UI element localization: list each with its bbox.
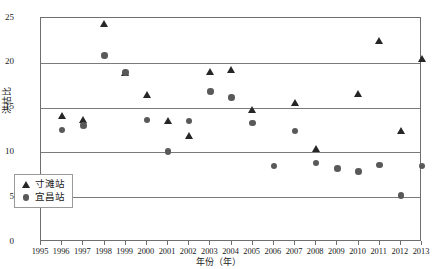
- gridline: [41, 197, 420, 198]
- y-tick-label: 10: [0, 147, 14, 156]
- data-point: [101, 52, 108, 59]
- data-point: [185, 132, 193, 139]
- x-tick: [273, 241, 274, 245]
- x-tick: [104, 241, 105, 245]
- y-tick-label: 0: [0, 237, 14, 246]
- x-tick-label: 2013: [404, 247, 437, 256]
- y-tick-label: 15: [0, 102, 14, 111]
- data-point: [334, 165, 341, 172]
- x-tick: [400, 241, 401, 245]
- data-point: [122, 69, 129, 76]
- gridline: [41, 152, 420, 153]
- circle-marker-icon: [20, 194, 32, 201]
- data-point: [291, 99, 299, 106]
- data-point: [227, 66, 235, 73]
- legend-item-yichang: 宜昌站: [20, 191, 65, 204]
- data-point: [418, 55, 426, 62]
- data-point: [164, 117, 172, 124]
- legend-item-cuntan: 寸滩站: [20, 178, 65, 191]
- legend-label: 寸滩站: [32, 179, 65, 190]
- y-tick-label: 25: [0, 13, 14, 22]
- scatter-chart: 洪枯比 年份（年） 寸滩站 宜昌站 0510152025199519961997…: [0, 0, 437, 269]
- data-point: [398, 192, 405, 199]
- data-point: [206, 68, 214, 75]
- data-point: [249, 120, 256, 127]
- x-tick: [231, 241, 232, 245]
- data-point: [355, 168, 362, 175]
- data-point: [354, 90, 362, 97]
- x-tick: [82, 241, 83, 245]
- x-tick: [167, 241, 168, 245]
- data-point: [165, 148, 172, 155]
- plot-area: [40, 17, 421, 241]
- x-tick: [188, 241, 189, 245]
- data-point: [313, 160, 320, 167]
- y-tick-label: 5: [0, 192, 14, 201]
- data-point: [312, 145, 320, 152]
- data-point: [228, 94, 235, 101]
- data-point: [419, 163, 426, 170]
- legend-label: 宜昌站: [32, 192, 65, 203]
- data-point: [376, 162, 383, 169]
- data-point: [144, 117, 151, 124]
- data-point: [100, 20, 108, 27]
- x-tick: [40, 241, 41, 245]
- chart-legend: 寸滩站 宜昌站: [14, 174, 73, 208]
- data-point: [80, 122, 87, 129]
- x-tick: [336, 241, 337, 245]
- gridline: [41, 63, 420, 64]
- x-tick: [252, 241, 253, 245]
- data-point: [292, 128, 299, 135]
- x-axis-label: 年份（年）: [0, 257, 437, 267]
- x-tick: [125, 241, 126, 245]
- x-tick: [358, 241, 359, 245]
- data-point: [143, 91, 151, 98]
- data-point: [58, 112, 66, 119]
- gridline: [41, 108, 420, 109]
- data-point: [186, 118, 193, 125]
- data-point: [207, 88, 214, 95]
- x-tick: [294, 241, 295, 245]
- data-point: [248, 106, 256, 113]
- x-tick: [315, 241, 316, 245]
- x-tick: [146, 241, 147, 245]
- data-point: [375, 37, 383, 44]
- x-tick: [379, 241, 380, 245]
- x-tick: [61, 241, 62, 245]
- data-point: [271, 163, 278, 170]
- x-tick: [209, 241, 210, 245]
- data-point: [59, 127, 66, 134]
- triangle-marker-icon: [20, 181, 32, 188]
- y-axis-label: 洪枯比: [2, 71, 12, 129]
- y-tick-label: 20: [0, 57, 14, 66]
- x-tick: [421, 241, 422, 245]
- data-point: [397, 127, 405, 134]
